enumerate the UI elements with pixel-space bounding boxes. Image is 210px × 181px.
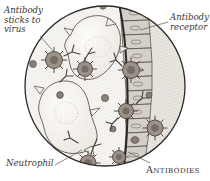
epithelial-cell [121, 20, 150, 35]
label-antibody-receptor: Antibody receptor [170, 13, 209, 32]
label-neutrophil: Neutrophil [6, 159, 53, 169]
label-antibody-sticks-to-virus: Antibody sticks to virus [4, 6, 43, 35]
label-antibodies: Antibodies [146, 165, 200, 175]
epithelial-cell [122, 34, 151, 49]
epithelial-cell [120, 4, 149, 21]
epithelial-cell [126, 118, 150, 133]
virus-7 [109, 147, 129, 167]
illustration-figure: Antibody sticks to virus Antibody recept… [0, 0, 210, 181]
epithelial-cell [123, 48, 152, 63]
